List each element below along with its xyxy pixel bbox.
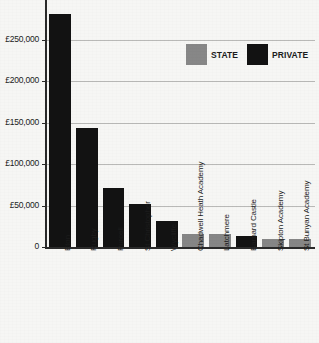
legend-swatch-state [186,44,207,65]
x-axis-label: Barnard Castle [250,199,258,251]
gridline [45,123,315,124]
bar-chart: 0£50,000£100,000£150,000£200,000£250,000… [0,0,319,343]
x-axis-label: Skipton Academy [277,191,285,251]
x-axis-label: St Bunyan Academy [303,181,311,251]
x-axis-label: Purcell [117,227,125,251]
bar-private [49,14,71,247]
legend-label-private: PRIVATE [272,50,308,60]
x-axis-label: Eton [64,235,72,251]
x-axis-label: Wycliffe [170,224,178,251]
y-axis-tick-label: £100,000 [0,159,39,168]
legend-swatch-private [247,44,268,65]
gridline [45,81,315,82]
y-axis-tick-label: 0 [0,242,39,251]
legend-label-state: STATE [211,50,238,60]
x-axis [45,247,315,249]
x-axis-label: Chadwell Heath Academy [197,162,205,251]
gridline [45,40,315,41]
y-axis-tick-label: £50,000 [0,201,39,210]
x-axis-label: St Christopher [144,201,152,251]
y-axis-tick-label: £250,000 [0,35,39,44]
x-axis-label: Latchmere [223,214,231,251]
y-axis [45,0,47,248]
y-axis-tick-label: £150,000 [0,118,39,127]
y-axis-tick-label: £200,000 [0,76,39,85]
x-axis-label: Rugby [90,228,98,251]
